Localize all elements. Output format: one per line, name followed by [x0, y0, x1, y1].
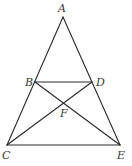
label-C: C [2, 149, 11, 162]
segment-AC [7, 17, 63, 145]
label-E: E [116, 149, 125, 162]
label-A: A [57, 2, 66, 15]
segment-CD [7, 82, 92, 145]
label-F: F [59, 107, 68, 120]
geometry-diagram: A B D F C E [0, 0, 132, 166]
segment-BE [35, 82, 120, 145]
label-D: D [95, 76, 105, 89]
segment-AE [63, 17, 120, 145]
label-B: B [24, 76, 33, 89]
